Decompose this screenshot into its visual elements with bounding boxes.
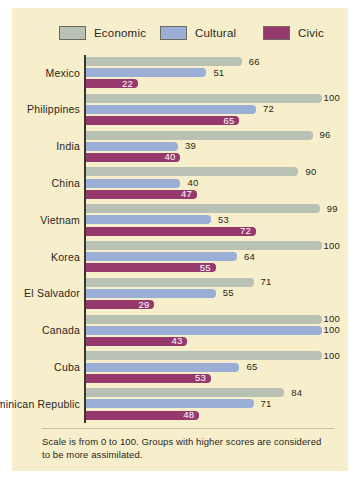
legend-swatch-cultural: [160, 26, 187, 40]
bar-value-label: 96: [320, 129, 335, 140]
bar-value-label: 55: [200, 262, 216, 273]
legend-item-civic: Civic: [263, 24, 324, 42]
bar-group: China904047: [12, 165, 348, 202]
bar-group-bars: 715529: [86, 278, 348, 311]
bar-cultural: [86, 68, 206, 77]
bar-group: Vietnam995372: [12, 202, 348, 239]
bar-value-label: 100: [324, 240, 344, 251]
bar-row: 100: [86, 94, 348, 103]
bar-row: 84: [86, 388, 348, 397]
bar-row: 100: [86, 351, 348, 360]
bar-row: 53: [86, 374, 348, 383]
bar-civic: [86, 411, 199, 420]
bar-civic: [86, 116, 239, 125]
bar-row: 96: [86, 131, 348, 140]
bar-economic: [86, 351, 322, 360]
bar-value-label: 72: [263, 103, 278, 114]
bar-cultural: [86, 179, 180, 188]
bar-row: 99: [86, 204, 348, 213]
legend-item-cultural: Cultural: [160, 24, 236, 42]
bar-row: 48: [86, 411, 348, 420]
bar-economic: [86, 315, 322, 324]
bar-group-bars: 995372: [86, 204, 348, 237]
bar-group: Mexico665122: [12, 55, 348, 92]
bar-group-label: Mexico: [0, 55, 80, 92]
bar-row: 65: [86, 363, 348, 372]
bar-value-label: 100: [324, 324, 344, 335]
bar-cultural: [86, 142, 178, 151]
bar-row: 71: [86, 278, 348, 287]
legend-label-cultural: Cultural: [195, 27, 236, 39]
bar-row: 22: [86, 79, 348, 88]
bar-cultural: [86, 105, 256, 114]
bar-value-label: 43: [172, 335, 188, 346]
bar-value-label: 29: [138, 299, 154, 310]
bar-cultural: [86, 289, 216, 298]
bar-economic: [86, 204, 320, 213]
bar-row: 100: [86, 315, 348, 324]
bar-group: Canada10010043: [12, 313, 348, 350]
bar-value-label: 39: [185, 140, 200, 151]
bar-group: El Salvador715529: [12, 276, 348, 313]
bar-chart-plot: Mexico665122Philippines1007265India96394…: [12, 55, 348, 423]
bar-cultural: [86, 252, 237, 261]
bar-group-label: Cuba: [0, 349, 80, 386]
bar-row: 64: [86, 252, 348, 261]
bar-row: 40: [86, 179, 348, 188]
legend-label-civic: Civic: [298, 27, 324, 39]
bar-row: 29: [86, 300, 348, 309]
bar-group: Cuba1006553: [12, 349, 348, 386]
bar-value-label: 90: [305, 166, 320, 177]
legend-swatch-economic: [59, 26, 86, 40]
bar-row: 39: [86, 142, 348, 151]
footnote-divider: [42, 428, 334, 429]
bar-cultural: [86, 399, 254, 408]
bar-value-label: 55: [223, 287, 238, 298]
chart-panel: Economic Cultural Civic Mexico665122Phil…: [12, 8, 348, 471]
bar-economic: [86, 388, 284, 397]
bar-value-label: 100: [324, 92, 344, 103]
bar-value-label: 100: [324, 313, 344, 324]
bar-group: India963940: [12, 129, 348, 166]
bar-group: Korea1006455: [12, 239, 348, 276]
bar-economic: [86, 57, 242, 66]
bar-cultural: [86, 363, 239, 372]
bar-group-label: El Salvador: [0, 276, 80, 313]
footnote-text: Scale is from 0 to 100. Groups with high…: [42, 436, 332, 461]
bar-group-bars: 1006553: [86, 351, 348, 384]
bar-economic: [86, 167, 298, 176]
bar-group-bars: 665122: [86, 57, 348, 90]
bar-value-label: 84: [291, 387, 306, 398]
bar-group: Dominican Republic847148: [12, 386, 348, 423]
bar-value-label: 53: [218, 214, 233, 225]
bar-row: 40: [86, 153, 348, 162]
bar-row: 55: [86, 289, 348, 298]
bar-group-label: Dominican Republic: [0, 386, 80, 423]
bar-row: 100: [86, 326, 348, 335]
bar-group-bars: 904047: [86, 167, 348, 200]
bar-row: 47: [86, 190, 348, 199]
bar-row: 100: [86, 241, 348, 250]
bar-economic: [86, 94, 322, 103]
bar-group: Philippines1007265: [12, 92, 348, 129]
bar-value-label: 65: [223, 115, 239, 126]
bar-economic: [86, 131, 313, 140]
bar-row: 71: [86, 399, 348, 408]
bar-value-label: 48: [183, 409, 199, 420]
legend-label-economic: Economic: [94, 27, 146, 39]
chart-legend: Economic Cultural Civic: [12, 24, 348, 46]
bar-value-label: 99: [327, 203, 342, 214]
bar-civic: [86, 227, 256, 236]
bar-value-label: 40: [164, 151, 180, 162]
bar-value-label: 51: [213, 67, 228, 78]
bar-group-label: Vietnam: [0, 202, 80, 239]
bar-row: 55: [86, 263, 348, 272]
bar-group-bars: 1007265: [86, 94, 348, 127]
bar-row: 53: [86, 215, 348, 224]
bar-value-label: 40: [187, 177, 202, 188]
bar-economic: [86, 241, 322, 250]
bar-row: 90: [86, 167, 348, 176]
bar-economic: [86, 278, 254, 287]
bar-group-bars: 963940: [86, 131, 348, 164]
bar-row: 72: [86, 105, 348, 114]
